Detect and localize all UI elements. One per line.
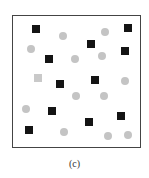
black-square-marker: [124, 24, 132, 32]
grey-circle-marker: [60, 128, 68, 136]
grey-circle-marker: [59, 32, 67, 40]
grey-square-marker: [34, 74, 42, 82]
grey-circle-marker: [27, 45, 35, 53]
black-square-marker: [85, 118, 93, 126]
black-square-marker: [91, 76, 99, 84]
black-square-marker: [121, 47, 129, 55]
grey-circle-marker: [22, 105, 30, 113]
black-square-marker: [117, 112, 125, 120]
black-square-marker: [45, 55, 53, 63]
grey-circle-marker: [72, 92, 80, 100]
black-square-marker: [48, 107, 56, 115]
black-square-marker: [25, 126, 33, 134]
black-square-marker: [32, 25, 40, 33]
black-square-marker: [87, 40, 95, 48]
grey-circle-marker: [124, 131, 132, 139]
figure-caption: (c): [0, 158, 149, 169]
grey-circle-marker: [98, 52, 106, 60]
grey-circle-marker: [100, 92, 108, 100]
grey-circle-marker: [121, 77, 129, 85]
grey-circle-marker: [101, 28, 109, 36]
black-square-marker: [56, 80, 64, 88]
grey-circle-marker: [71, 55, 79, 63]
grey-circle-marker: [104, 132, 112, 140]
